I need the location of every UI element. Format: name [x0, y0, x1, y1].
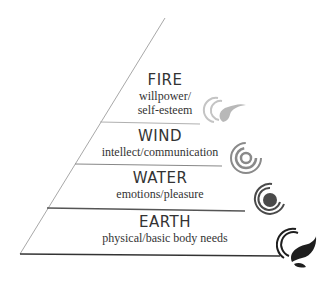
tier-subtitle: emotions/pleasure — [95, 187, 225, 201]
tier-water: WATER emotions/pleasure — [95, 170, 225, 201]
water-spiral-icon — [250, 180, 288, 218]
tier-subtitle: self-esteem — [125, 103, 205, 117]
tier-subtitle: willpower/ — [125, 89, 205, 103]
fire-swirl-icon — [200, 92, 250, 126]
tier-title: FIRE — [125, 72, 205, 89]
earth-leaf-icon — [276, 226, 318, 272]
tier-title: WIND — [95, 128, 225, 145]
tier-fire: FIRE willpower/ self-esteem — [125, 72, 205, 117]
tier-wind: WIND intellect/communication — [95, 128, 225, 159]
tier-title: WATER — [95, 170, 225, 187]
wind-spiral-icon — [228, 140, 264, 176]
tier-subtitle: intellect/communication — [95, 145, 225, 159]
tier-title: EARTH — [90, 214, 240, 231]
tier-subtitle: physical/basic body needs — [90, 231, 240, 245]
tier-earth: EARTH physical/basic body needs — [90, 214, 240, 245]
